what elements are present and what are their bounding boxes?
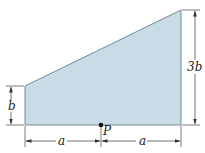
trapezoid-figure: b 3b a a P [0, 0, 205, 153]
label-b: b [8, 99, 16, 113]
label-a-right: a [139, 134, 146, 148]
label-a-left: a [58, 134, 65, 148]
label-p: P [102, 124, 112, 138]
shaded-area [25, 10, 181, 125]
label-3b: 3b [187, 60, 202, 74]
diagram: b 3b a a P [0, 0, 205, 153]
